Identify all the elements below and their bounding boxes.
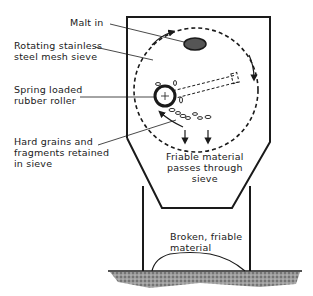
collection-stand	[143, 186, 250, 271]
label-retained-grains: Hard grains and fragments retained in si…	[14, 136, 109, 169]
rubber-roller-icon	[155, 86, 175, 106]
spring-arm	[168, 72, 239, 100]
falling-arrows	[185, 130, 208, 141]
label-malt-in: Malt in	[70, 17, 103, 28]
malt-sample-icon	[184, 38, 206, 50]
label-rotating-sieve: Rotating stainless steel mesh sieve	[14, 40, 102, 62]
label-rubber-roller: Spring loaded rubber roller	[14, 84, 82, 106]
label-broken-material: Broken, friable material	[170, 231, 242, 253]
rotation-arrow-bottom-icon	[161, 113, 183, 127]
ground	[108, 271, 302, 288]
label-friable-passes: Friable material passes through sieve	[166, 151, 244, 184]
broken-material-pile	[152, 253, 245, 272]
rotation-arrow-right-icon	[249, 55, 254, 78]
